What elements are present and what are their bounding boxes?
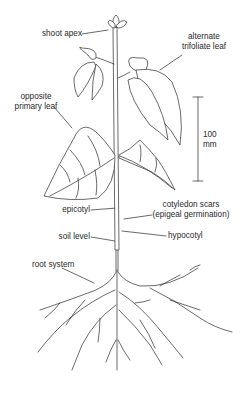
label-alternate-trifoliate-leaf-line2: trifoliate leaf [168, 42, 240, 52]
label-shoot-apex: shoot apex [20, 29, 82, 39]
label-root-system: root system [32, 260, 74, 270]
opposite-primary-leaf-left [44, 127, 115, 199]
upper-left-leaves [74, 47, 114, 100]
plant-illustration [0, 0, 241, 398]
plant-diagram: shoot apex alternate trifoliate leaf opp… [0, 0, 241, 398]
label-scale-unit: mm [203, 140, 217, 150]
label-alternate-trifoliate-leaf-line1: alternate [168, 32, 240, 42]
label-opposite-primary-leaf-line1: opposite [8, 92, 64, 102]
label-scale-value: 100 [203, 130, 217, 140]
label-epicotyl: epicotyl [30, 205, 90, 215]
label-opposite-primary-leaf-line2: primary leaf [4, 102, 68, 112]
shoot-apex-bud [108, 15, 127, 28]
stem [113, 27, 119, 250]
label-cotyledon-scars-line1: cotyledon scars [146, 200, 236, 210]
label-soil-level: soil level [30, 232, 90, 242]
opposite-primary-leaf-right [119, 140, 175, 190]
label-cotyledon-scars-line2: (epigeal germination) [146, 210, 236, 220]
label-hypocotyl: hypocotyl [168, 231, 203, 241]
scale-bar [193, 97, 203, 181]
alternate-trifoliate-leaf [118, 57, 181, 145]
